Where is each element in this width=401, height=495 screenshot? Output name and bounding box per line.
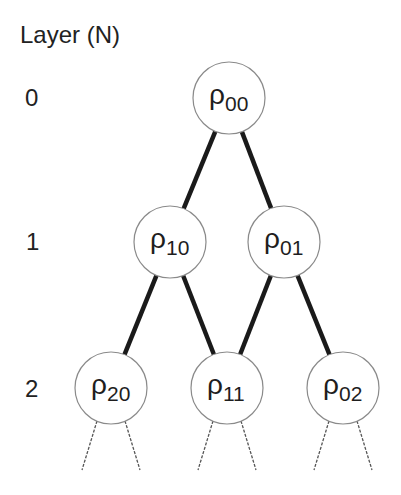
node-p01: ρ01 <box>248 206 320 278</box>
edge-p00-p01 <box>242 132 271 209</box>
node-p20: ρ20 <box>75 352 147 424</box>
continuation-line-p20 <box>82 421 97 470</box>
svg-text:11: 11 <box>223 382 245 405</box>
continuation-line-p02 <box>314 421 329 470</box>
continuation-line-p20 <box>125 421 140 470</box>
tree-diagram: ρ00ρ10ρ01ρ20ρ11ρ02 <box>0 0 401 495</box>
edge-p10-p11 <box>183 276 214 355</box>
continuation-line-p02 <box>357 421 372 470</box>
node-p11: ρ11 <box>191 352 263 424</box>
svg-text:ρ: ρ <box>264 223 280 254</box>
edge-p00-p10 <box>184 131 216 208</box>
svg-text:02: 02 <box>339 382 362 405</box>
node-p10: ρ10 <box>134 206 206 278</box>
edge-p10-p20 <box>124 275 156 354</box>
edge-p01-p02 <box>297 275 329 354</box>
continuation-line-p11 <box>241 421 256 470</box>
edge-p01-p11 <box>240 276 271 355</box>
continuation-lines <box>82 421 372 470</box>
svg-text:20: 20 <box>107 382 130 405</box>
node-p00: ρ00 <box>193 62 265 134</box>
svg-text:00: 00 <box>225 92 248 115</box>
svg-text:10: 10 <box>166 236 189 259</box>
svg-text:ρ: ρ <box>323 369 339 400</box>
svg-text:ρ: ρ <box>91 369 107 400</box>
svg-text:ρ: ρ <box>150 223 166 254</box>
svg-text:ρ: ρ <box>207 369 223 400</box>
node-p02: ρ02 <box>307 352 379 424</box>
svg-text:ρ: ρ <box>209 79 225 110</box>
svg-text:01: 01 <box>280 236 303 259</box>
nodes-layer: ρ00ρ10ρ01ρ20ρ11ρ02 <box>75 62 379 424</box>
continuation-line-p11 <box>198 421 213 470</box>
